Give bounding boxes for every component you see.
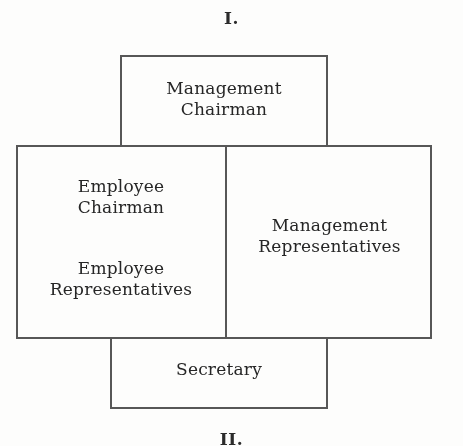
management-representatives-label-line-2: Representatives (227, 236, 432, 257)
management-chairman-label: Management Chairman (120, 78, 328, 119)
joint-committee-box-top-edge (16, 145, 432, 147)
management-chairman-label-line-1: Management (120, 78, 328, 99)
employee-chairman-label: Employee Chairman (18, 176, 224, 217)
secretary-label: Secretary (110, 359, 328, 380)
management-chairman-box-top-edge (120, 55, 328, 57)
secretary-label-line-1: Secretary (110, 359, 328, 380)
employee-representatives-label-line-2: Representatives (18, 279, 224, 300)
management-representatives-label: Management Representatives (227, 215, 432, 256)
employee-chairman-label-line-2: Chairman (18, 197, 224, 218)
employee-representatives-label-line-1: Employee (18, 258, 224, 279)
joint-committee-box-bottom-edge (16, 337, 432, 339)
management-chairman-label-line-2: Chairman (120, 99, 328, 120)
employee-chairman-label-line-1: Employee (18, 176, 224, 197)
employee-representatives-label: Employee Representatives (18, 258, 224, 299)
organisation-chart-figure: I. Management Chairman Employee Chairman… (0, 0, 463, 446)
secretary-box-bottom-edge (110, 407, 328, 409)
figure-numeral-bottom: II. (0, 429, 463, 446)
management-representatives-label-line-1: Management (227, 215, 432, 236)
joint-committee-box-left-edge (16, 145, 18, 339)
figure-numeral-top: I. (0, 8, 463, 28)
